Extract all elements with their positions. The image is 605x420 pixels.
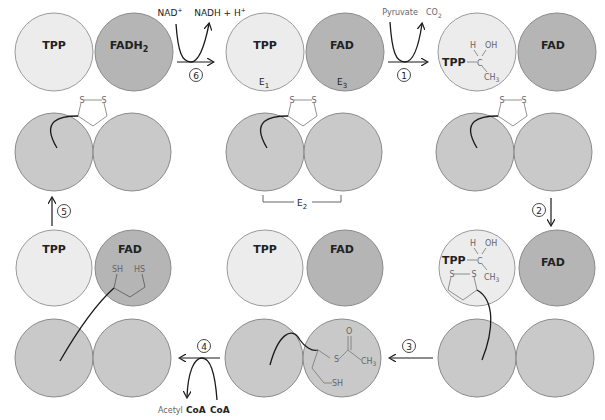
e2-circle-right: [304, 113, 382, 191]
c-atom: C: [477, 59, 483, 68]
e1-tpp-circle: [226, 13, 304, 91]
e2-circle-right: [514, 113, 592, 191]
s-atom: S: [499, 96, 504, 105]
step-2: 2: [533, 198, 552, 225]
fadh2-label: FADH2: [110, 39, 149, 54]
c-atom: C: [477, 257, 483, 266]
fad-circle: [307, 230, 383, 306]
fad-label: FAD: [541, 39, 565, 52]
e2-circle-left: [15, 113, 93, 191]
fad-label: FAD: [330, 39, 354, 52]
acetyl-coa-label: CoA: [186, 405, 206, 415]
nadh-label: NADH + H+: [194, 6, 246, 18]
step-number: 5: [61, 207, 67, 217]
tpp-circle: [227, 230, 303, 306]
nad-label: NAD+: [158, 6, 183, 18]
h-atom: H: [470, 239, 476, 248]
e2-circle-left: [438, 319, 516, 397]
fadh2-circle: [95, 13, 173, 91]
e2-circle-left: [15, 319, 93, 397]
tpp-label: TPP: [442, 56, 466, 69]
step-number: 1: [401, 71, 407, 81]
e2-circle-left: [226, 113, 304, 191]
s-atom: S: [521, 96, 526, 105]
step-1: Pyruvate CO2 1: [382, 8, 442, 82]
coa-label: CoA: [210, 405, 230, 415]
oh-group: OH: [485, 41, 497, 50]
panel-lipoamide-transfer: TPP H OH C CH3 S S FAD: [438, 230, 595, 397]
sh-group: SH: [332, 379, 343, 388]
tpp-circle: [438, 13, 516, 91]
tpp-label: TPP: [42, 243, 66, 256]
e2-circle-left: [225, 319, 303, 397]
s-atom: S: [79, 96, 84, 105]
step-number: 6: [193, 71, 199, 81]
s-atom: S: [289, 96, 294, 105]
tpp-circle: [15, 13, 93, 91]
s-atom: S: [334, 355, 339, 364]
panel-acetyl-lipoamide: TPP FAD S O CH3 SH: [225, 230, 383, 397]
pdh-cycle-diagram: TPP FADH2 S S NAD+ NADH + H+ 6 TPP FAD E…: [0, 0, 605, 420]
step-3: 3: [390, 340, 433, 359]
e2-circle-right: [93, 319, 171, 397]
panel-resting-complex: TPP FAD E1 E3 S S E2: [226, 13, 384, 211]
tpp-circle: [16, 230, 92, 306]
panel-dihydrolipoamide: TPP FAD SH HS: [15, 230, 171, 397]
o-atom: O: [346, 327, 352, 336]
e2-circle-left: [436, 113, 514, 191]
fad-label: FAD: [118, 243, 142, 256]
co2-label: CO2: [426, 8, 442, 19]
pyruvate-label: Pyruvate: [382, 8, 418, 17]
h-atom: H: [470, 41, 476, 50]
step-5: 5: [52, 198, 71, 226]
s-atom: S: [101, 96, 106, 105]
fad-circle: [518, 13, 596, 91]
tpp-label: TPP: [253, 243, 277, 256]
panel-fadh2-state: TPP FADH2 S S: [15, 13, 173, 191]
oh-group: OH: [485, 239, 497, 248]
tpp-label: TPP: [442, 254, 466, 267]
tpp-label: TPP: [253, 39, 277, 52]
tpp-circle: [439, 230, 515, 306]
step-number: 4: [201, 342, 207, 352]
s-atom: S: [449, 270, 454, 279]
s-atom: S: [311, 96, 316, 105]
e3-fad-circle: [306, 13, 384, 91]
fad-label: FAD: [330, 243, 354, 256]
e2-circle-right: [516, 319, 594, 397]
step-number: 2: [536, 206, 542, 216]
hs-group: HS: [134, 265, 145, 274]
tpp-label: TPP: [42, 39, 66, 52]
step-number: 3: [406, 342, 412, 352]
panel-hydroxyethyl-tpp: TPP H OH C CH3 FAD S S: [436, 13, 596, 191]
e2-circle-right: [93, 113, 171, 191]
fad-label: FAD: [541, 256, 565, 269]
acetyl-prefix-label: Acetyl: [158, 406, 183, 415]
s-atom: S: [471, 270, 476, 279]
sh-group: SH: [112, 265, 123, 274]
